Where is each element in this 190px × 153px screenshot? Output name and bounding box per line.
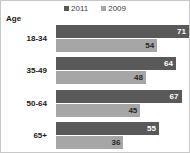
bar-value-label: 45 [128, 106, 137, 115]
bar-pair: 64 48 [56, 55, 189, 88]
bar-group: 35-49 64 48 [1, 55, 189, 88]
bar-value-label: 55 [147, 124, 156, 133]
legend-label-2009: 2009 [108, 4, 126, 13]
square-marker-icon [101, 6, 106, 11]
bar-2009: 45 [56, 104, 140, 117]
bar-pair: 71 54 [56, 22, 189, 55]
bar-2009: 54 [56, 39, 157, 52]
bar-2011: 67 [56, 90, 182, 103]
bar-2011: 55 [56, 122, 159, 135]
bar-value-label: 48 [134, 73, 143, 82]
bar-group: 50-64 67 45 [1, 87, 189, 120]
legend-entry-2009: 2009 [101, 4, 126, 13]
bar-value-label: 64 [164, 59, 173, 68]
bar-chart-figure: 2011 2009 Age 18-34 71 54 35-49 64 [0, 0, 190, 153]
legend-entry-2011: 2011 [64, 4, 88, 13]
chart-legend: 2011 2009 [1, 2, 189, 15]
bar-pair: 67 45 [56, 87, 189, 120]
legend-label-2011: 2011 [71, 4, 88, 13]
bar-group: 65+ 55 36 [1, 120, 189, 153]
bar-2011: 71 [56, 25, 189, 38]
bar-value-label: 67 [170, 92, 179, 101]
bar-value-label: 36 [112, 138, 121, 147]
square-marker-icon [64, 6, 69, 11]
plot-area: 18-34 71 54 35-49 64 48 50 [1, 22, 189, 152]
category-label: 35-49 [1, 55, 51, 88]
bar-group: 18-34 71 54 [1, 22, 189, 55]
bar-2011: 64 [56, 57, 176, 70]
category-label: 50-64 [1, 87, 51, 120]
bar-value-label: 54 [145, 41, 154, 50]
category-label: 65+ [1, 120, 51, 153]
bar-pair: 55 36 [56, 120, 189, 153]
bar-value-label: 71 [177, 27, 186, 36]
bar-2009: 36 [56, 136, 123, 149]
bar-2009: 48 [56, 71, 146, 84]
category-label: 18-34 [1, 22, 51, 55]
